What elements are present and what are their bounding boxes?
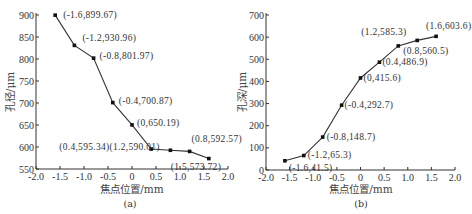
data-point-marker — [73, 44, 77, 48]
data-point-marker — [283, 159, 287, 163]
y-tick-label: 900 — [19, 10, 34, 21]
data-point-marker — [53, 13, 57, 17]
y-tick-label: 300 — [249, 98, 264, 109]
data-label: (0.4,486.9) — [382, 57, 427, 68]
data-point-marker — [302, 154, 306, 158]
chart-a-caption: (a) — [123, 198, 136, 209]
x-tick-label: 0.5 — [378, 172, 391, 183]
data-label: (1.2,585.3) — [361, 27, 406, 38]
x-tick-label: 2.0 — [449, 172, 462, 183]
data-point-marker — [92, 56, 96, 60]
y-tick-label: 850 — [19, 32, 34, 43]
y-tick-label: 800 — [19, 54, 34, 65]
data-point-marker — [111, 101, 115, 105]
data-label: (-1.6,899.67) — [63, 10, 117, 21]
x-tick-label: -2.0 — [28, 171, 44, 182]
chart-b-annotations: (-1.6,41.5)(-1.2,65.3)(-0.8,148.7)(-0.4,… — [289, 21, 471, 173]
x-tick-label: 1.5 — [425, 172, 438, 183]
data-label: (-0.4,700.87) — [119, 96, 173, 107]
data-point-marker — [434, 35, 438, 39]
data-point-marker — [130, 123, 134, 127]
data-label: (-1.2,930.96) — [82, 33, 136, 44]
data-label: (-0.8,148.7) — [327, 132, 376, 143]
data-point-marker — [340, 103, 344, 107]
x-tick-label: 0 — [358, 172, 363, 183]
x-tick-label: -1.5 — [52, 171, 68, 182]
y-tick-label: 600 — [19, 142, 34, 153]
chart-b-caption: (b) — [354, 198, 368, 209]
chart-b-ylabel: 孔深/μm — [236, 72, 248, 112]
data-point-marker — [378, 60, 382, 64]
data-point-marker — [397, 44, 401, 48]
chart-b-hole-depth: 0100200300400500600700-2.0-1.5-1.0-0.500… — [236, 10, 471, 210]
x-tick-label: -0.5 — [329, 172, 345, 183]
x-tick-label: -0.5 — [100, 171, 116, 182]
data-label: (1.6,603.6) — [426, 21, 471, 32]
data-point-marker — [359, 76, 363, 80]
x-tick-label: -1.0 — [305, 172, 321, 183]
x-tick-label: 0.5 — [150, 171, 163, 182]
chart-a-xlabel: 焦点位置/mm — [100, 183, 163, 195]
chart-b-axes: 0100200300400500600700-2.0-1.5-1.0-0.500… — [249, 10, 461, 184]
x-tick-label: 0 — [130, 171, 135, 182]
y-tick-label: 650 — [19, 120, 34, 131]
data-label: (0,415.6) — [364, 73, 402, 84]
x-tick-label: 1.0 — [402, 172, 415, 183]
data-label: (-0.4,292.7) — [345, 100, 394, 111]
data-point-marker — [415, 39, 419, 43]
data-label: (0.4,595.34)(1.2,590.01) — [59, 142, 160, 153]
data-label: (-1.6,41.5) — [289, 163, 333, 174]
y-tick-label: 100 — [249, 142, 264, 153]
data-point-marker — [169, 148, 173, 152]
x-tick-label: -2.0 — [258, 172, 274, 183]
x-tick-label: 2.0 — [222, 171, 235, 182]
y-tick-label: 200 — [249, 120, 264, 131]
data-label: (0.8,592.57) — [192, 134, 242, 145]
figure: 550600650700750800850900-2.0-1.5-1.0-0.5… — [0, 0, 472, 214]
chart-a-hole-diameter: 550600650700750800850900-2.0-1.5-1.0-0.5… — [4, 10, 242, 210]
x-tick-label: 1.0 — [174, 171, 187, 182]
data-label: (-1.2,65.3) — [308, 150, 352, 161]
chart-b-xlabel: 焦点位置/mm — [329, 183, 392, 195]
chart-a-annotations: (-1.6,899.67)(-1.2,930.96)(-0.8,801.97)(… — [59, 10, 242, 172]
y-tick-label: 400 — [249, 76, 264, 87]
chart-a-ylabel: 孔径/μm — [4, 72, 16, 112]
y-tick-label: 750 — [19, 76, 34, 87]
x-tick-label: -1.5 — [282, 172, 298, 183]
data-label: (1.5,573.72) — [171, 162, 221, 173]
y-tick-label: 700 — [19, 98, 34, 109]
data-label: (0.8,560.5) — [403, 46, 448, 57]
y-tick-label: 500 — [249, 54, 264, 65]
x-tick-label: 1.5 — [198, 171, 211, 182]
y-tick-label: 600 — [249, 32, 264, 43]
data-point-marker — [321, 135, 325, 139]
data-point-marker — [207, 157, 211, 161]
data-point-marker — [188, 150, 192, 154]
data-label: (-0.8,801.97) — [100, 51, 154, 62]
y-tick-label: 700 — [249, 10, 264, 21]
x-tick-label: -1.0 — [76, 171, 92, 182]
data-label: (0,650.19) — [137, 118, 180, 129]
